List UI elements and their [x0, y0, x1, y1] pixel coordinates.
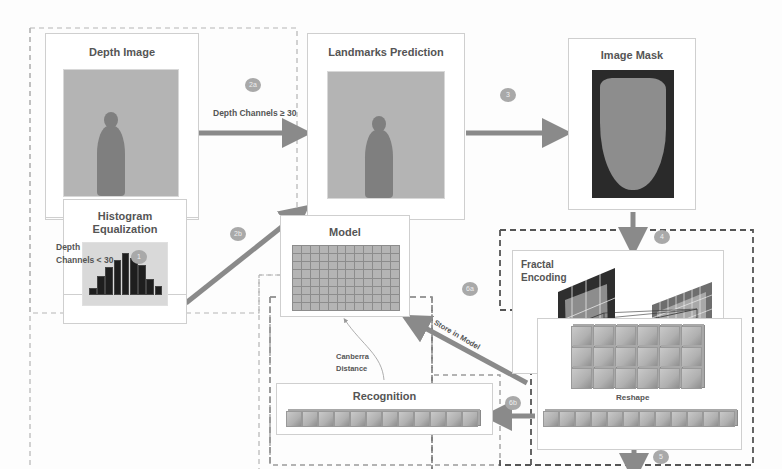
cube — [350, 411, 366, 427]
badge-6a: 6a — [462, 282, 478, 296]
cube — [615, 368, 636, 389]
cube — [671, 411, 687, 427]
cube — [659, 368, 680, 389]
canberra-label-line2: Distance — [336, 364, 367, 373]
cube — [334, 411, 350, 427]
cube — [659, 347, 680, 368]
cube — [593, 326, 614, 347]
cube — [571, 326, 592, 347]
cube — [637, 326, 658, 347]
recognition-title: Recognition — [277, 390, 492, 402]
badge-5: 5 — [653, 450, 669, 464]
cube — [302, 411, 318, 427]
cube — [286, 411, 302, 427]
cube — [543, 411, 559, 427]
reshape-title: Reshape — [616, 393, 649, 402]
cube — [318, 411, 334, 427]
cube — [607, 411, 623, 427]
cube — [591, 411, 607, 427]
cube — [615, 347, 636, 368]
cube — [615, 326, 636, 347]
badge-1: 1 — [131, 250, 147, 264]
cube — [593, 347, 614, 368]
cube — [659, 326, 680, 347]
canberra-label-line1: Canberra — [336, 352, 369, 361]
cube — [681, 347, 702, 368]
badge-4: 4 — [654, 230, 670, 244]
recognition-box: Recognition — [276, 383, 493, 435]
cube — [559, 411, 575, 427]
badge-6b: 6b — [505, 396, 521, 410]
cube — [687, 411, 703, 427]
cube — [366, 411, 382, 427]
cube — [719, 411, 735, 427]
edge-1-label-line2: Channels < 30 — [56, 255, 113, 265]
cube — [414, 411, 430, 427]
edge-2a-label: Depth Channels ≥ 30 — [213, 108, 297, 118]
cube — [637, 368, 658, 389]
cube — [575, 411, 591, 427]
cube — [623, 411, 639, 427]
cube — [681, 368, 702, 389]
cube — [446, 411, 462, 427]
cube — [637, 347, 658, 368]
cube — [571, 347, 592, 368]
cube — [639, 411, 655, 427]
cube — [462, 411, 478, 427]
cube — [382, 411, 398, 427]
cube — [703, 411, 719, 427]
badge-2a: 2a — [245, 78, 261, 92]
edge-1-label-line1: Depth — [56, 242, 80, 252]
cube — [593, 368, 614, 389]
cube — [655, 411, 671, 427]
cube — [398, 411, 414, 427]
cube — [571, 368, 592, 389]
badge-3: 3 — [500, 88, 516, 102]
cube — [681, 326, 702, 347]
badge-2b: 2b — [230, 227, 246, 241]
cube — [430, 411, 446, 427]
